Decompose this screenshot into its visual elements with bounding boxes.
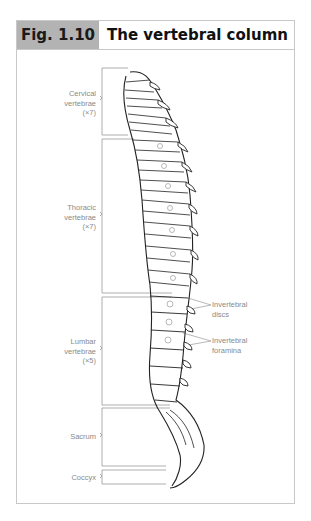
vertebral-column-illustration (0, 0, 311, 521)
